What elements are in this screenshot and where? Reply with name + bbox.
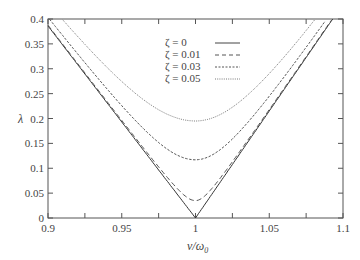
y-axis-label: λ bbox=[17, 112, 23, 126]
x-axis-label: ν/ω0 bbox=[187, 239, 208, 255]
x-tick-label: 1 bbox=[193, 222, 199, 234]
x-tick-label: 0.9 bbox=[41, 222, 55, 234]
chart: 00.050.10.150.20.250.30.350.40.90.9511.0… bbox=[0, 0, 360, 260]
y-tick-label: 0.15 bbox=[25, 137, 45, 149]
y-tick-label: 0.2 bbox=[30, 113, 44, 125]
y-tick-label: 0.25 bbox=[25, 88, 45, 100]
y-tick-label: 0.05 bbox=[25, 187, 45, 199]
y-tick-label: 0.3 bbox=[30, 63, 44, 75]
x-tick-label: 0.95 bbox=[112, 222, 132, 234]
y-tick-label: 0.4 bbox=[30, 13, 44, 25]
x-tick-label: 1.05 bbox=[260, 222, 280, 234]
x-tick-label: 1.1 bbox=[336, 222, 350, 234]
legend-label-3: ζ = 0.05 bbox=[165, 72, 201, 85]
axis-ticks: 00.050.10.150.20.250.30.350.40.90.9511.0… bbox=[25, 13, 350, 234]
legend: ζ = 0 ζ = 0.01 ζ = 0.03 ζ = 0.05 bbox=[165, 36, 240, 85]
y-tick-label: 0.35 bbox=[25, 38, 45, 50]
y-tick-label: 0.1 bbox=[30, 162, 44, 174]
